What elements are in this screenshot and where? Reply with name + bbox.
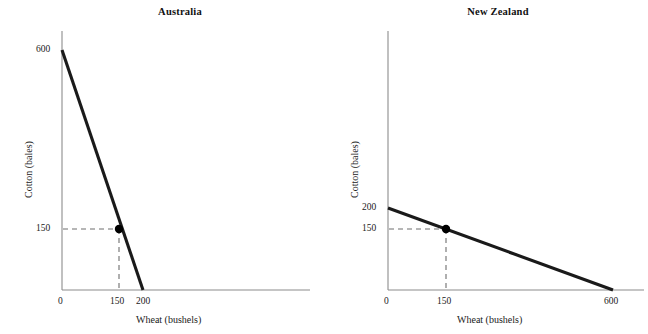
panel-australia: Australia 600 150 0 150 200 Wheat (bushe… (0, 0, 324, 334)
two-panel-ppf-figure: Australia 600 150 0 150 200 Wheat (bushe… (0, 0, 648, 334)
x-tick-label-200-australia: 200 (136, 297, 150, 307)
panel-newzealand: New Zealand 200 150 0 150 600 Wheat (bus… (324, 0, 648, 334)
y-tick-label-150-newzealand: 150 (362, 224, 376, 234)
y-tick-label-200-newzealand: 200 (362, 203, 376, 213)
plot-area-newzealand (324, 0, 648, 334)
production-point-australia (115, 225, 123, 233)
x-axis-title-australia: Wheat (bushels) (136, 315, 201, 325)
y-axis-title-australia: Cotton (bales) (24, 141, 34, 198)
production-point-newzealand (442, 225, 450, 233)
y-tick-label-600-australia: 600 (36, 45, 50, 55)
y-axis-title-newzealand: Cotton (bales) (350, 141, 360, 198)
y-tick-label-150-australia: 150 (36, 224, 50, 234)
x-tick-label-600-newzealand: 600 (604, 297, 618, 307)
x-tick-label-150-newzealand: 150 (437, 297, 451, 307)
x-tick-label-0-australia: 0 (58, 297, 63, 307)
x-axis-title-newzealand: Wheat (bushels) (457, 315, 522, 325)
x-tick-label-0-newzealand: 0 (384, 297, 389, 307)
ppf-line-newzealand (388, 208, 613, 290)
x-tick-label-150-australia: 150 (110, 297, 124, 307)
ppf-line-australia (62, 50, 143, 290)
